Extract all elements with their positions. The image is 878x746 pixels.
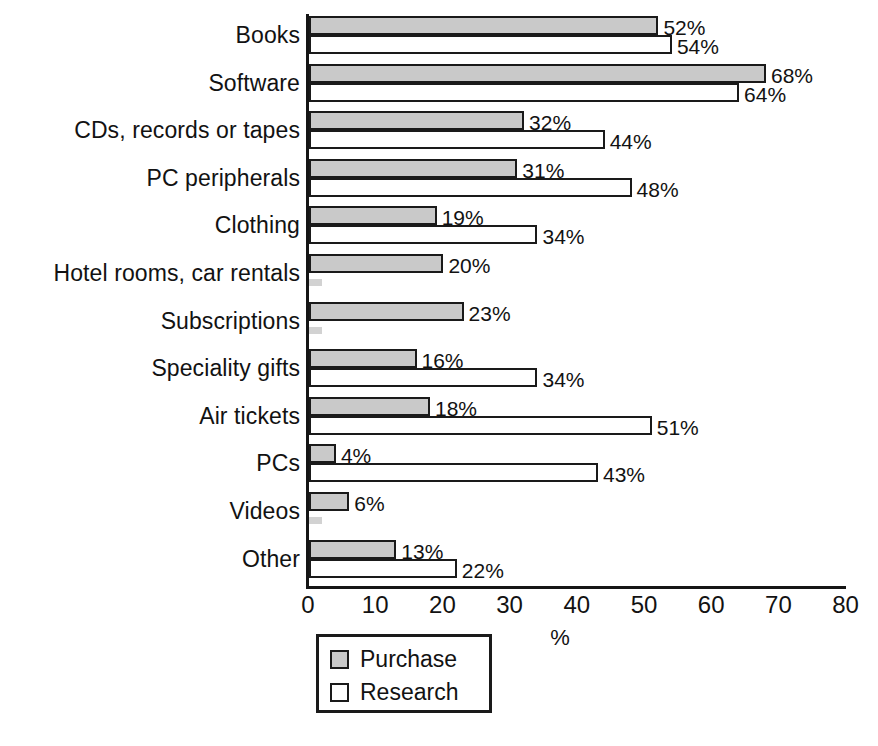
bar-purchase [309, 16, 658, 35]
bar-value-label: 22% [462, 560, 504, 581]
bar-research [309, 327, 322, 334]
bar-research [309, 517, 322, 524]
category-label: Other [0, 548, 300, 571]
bar-value-label: 34% [542, 226, 584, 247]
bar-value-label: 34% [542, 369, 584, 390]
bar-research [309, 178, 632, 197]
bar-chart: BooksSoftwareCDs, records or tapesPC per… [0, 0, 878, 746]
category-label: Hotel rooms, car rentals [0, 262, 300, 285]
bar-purchase [309, 111, 524, 130]
bar-research [309, 130, 605, 149]
bar-value-label: 43% [603, 464, 645, 485]
category-label: Clothing [0, 214, 300, 237]
bar-purchase [309, 444, 336, 463]
category-label: Software [0, 72, 300, 95]
x-axis-title: % [530, 625, 590, 651]
bar-value-label: 48% [637, 179, 679, 200]
category-label: CDs, records or tapes [0, 119, 300, 142]
bar-research [309, 83, 739, 102]
x-tick-label: 50 [622, 592, 666, 618]
bar-value-label: 54% [677, 36, 719, 57]
legend-swatch-purchase-icon [330, 650, 349, 669]
legend-item-research[interactable]: Research [330, 677, 458, 707]
x-tick-label: 60 [689, 592, 733, 618]
bar-value-label: 44% [610, 131, 652, 152]
category-label: PC peripherals [0, 167, 300, 190]
bar-purchase [309, 540, 396, 559]
x-tick-label: 20 [420, 592, 464, 618]
bar-research [309, 368, 537, 387]
bar-value-label: 51% [657, 417, 699, 438]
legend: Purchase Research [316, 634, 492, 713]
category-label: Air tickets [0, 405, 300, 428]
legend-item-purchase[interactable]: Purchase [330, 644, 457, 674]
legend-label-purchase: Purchase [360, 648, 457, 671]
category-label: Books [0, 24, 300, 47]
x-tick-label: 70 [756, 592, 800, 618]
bar-value-label: 6% [354, 493, 384, 514]
category-label: Subscriptions [0, 310, 300, 333]
bar-research [309, 35, 672, 54]
bar-research [309, 225, 537, 244]
category-label-column: BooksSoftwareCDs, records or tapesPC per… [0, 0, 300, 590]
category-label: Speciality gifts [0, 357, 300, 380]
x-tick-label: 10 [353, 592, 397, 618]
bar-research [309, 279, 322, 286]
legend-swatch-research-icon [330, 683, 349, 702]
x-tick-label: 80 [824, 592, 868, 618]
bar-purchase [309, 302, 464, 321]
bar-research [309, 416, 652, 435]
bars-area: 52%54%68%64%32%44%31%48%19%34%20%23%16%3… [309, 0, 878, 590]
bar-purchase [309, 349, 417, 368]
bar-purchase [309, 64, 766, 83]
bar-research [309, 559, 457, 578]
bar-research [309, 463, 598, 482]
x-tick-label: 0 [286, 592, 330, 618]
bar-value-label: 20% [448, 255, 490, 276]
bar-value-label: 64% [744, 84, 786, 105]
bar-purchase [309, 254, 443, 273]
category-label: Videos [0, 500, 300, 523]
bar-purchase [309, 159, 517, 178]
bar-purchase [309, 492, 349, 511]
x-tick-label: 30 [488, 592, 532, 618]
category-label: PCs [0, 452, 300, 475]
bar-value-label: 23% [469, 303, 511, 324]
legend-label-research: Research [360, 681, 458, 704]
bar-purchase [309, 206, 437, 225]
x-tick-label: 40 [555, 592, 599, 618]
bar-purchase [309, 397, 430, 416]
